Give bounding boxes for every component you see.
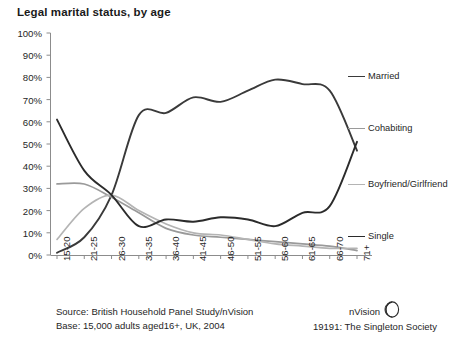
y-axis-tick-label: 100% (6, 28, 42, 39)
series-line-single (57, 120, 357, 228)
legend-item-single[interactable]: Single (348, 232, 394, 241)
x-axis-tick-label: 56-60 (279, 236, 290, 261)
x-axis-tick-label: 15-20 (61, 236, 72, 261)
brand-caption: 19191: The Singleton Society (300, 321, 450, 332)
x-axis-tick-label: 31-35 (143, 236, 154, 261)
y-axis-tick-label: 50% (6, 139, 42, 150)
x-axis-tick-label: 21-25 (88, 236, 99, 261)
footer-notes: Source: British Household Panel Study/nV… (56, 305, 253, 332)
brand-name: nVision (349, 307, 380, 317)
series-line-married (57, 79, 357, 252)
x-axis-tick-label: 51-55 (252, 236, 263, 261)
data-series-lines (57, 79, 357, 252)
y-axis-tick-label: 10% (6, 227, 42, 238)
y-axis-tick-label: 0% (6, 250, 42, 261)
base-line: Base: 15,000 adults aged16+, UK, 2004 (56, 319, 253, 333)
legend-swatch (348, 184, 365, 185)
source-line: Source: British Household Panel Study/nV… (56, 305, 253, 319)
y-axis-tick-label: 40% (6, 161, 42, 172)
legend-swatch (348, 76, 365, 77)
brand-block: nVision 19191: The Singleton Society (300, 303, 450, 332)
y-axis-tick-label: 90% (6, 50, 42, 61)
legend-label: Married (368, 72, 400, 81)
legend-item-married[interactable]: Married (348, 72, 400, 81)
chart-container: Legal marital status, by age 0%10%20%30%… (0, 0, 452, 351)
y-axis-tick-label: 20% (6, 205, 42, 216)
legend-item-boyfriend-girlfriend[interactable]: Boyfriend/Girlfriend (348, 180, 448, 189)
y-axis-ticks (47, 33, 51, 255)
plot-area (0, 0, 452, 351)
legend-label: Cohabiting (368, 124, 412, 133)
nvision-sphere-icon (382, 301, 401, 322)
y-axis-tick-label: 70% (6, 94, 42, 105)
x-axis-tick-label: 26-30 (116, 236, 127, 261)
legend-swatch (348, 236, 365, 237)
x-axis-tick-label: 46-50 (225, 236, 236, 261)
y-axis-tick-label: 30% (6, 183, 42, 194)
legend-item-cohabiting[interactable]: Cohabiting (348, 124, 412, 133)
legend-label: Boyfriend/Girlfriend (368, 180, 448, 189)
x-axis-tick-label: 71+ (361, 245, 372, 261)
axis-lines (51, 33, 373, 256)
y-axis-tick-label: 80% (6, 72, 42, 83)
x-axis-tick-label: 66-70 (334, 236, 345, 261)
x-axis-tick-label: 41-45 (197, 236, 208, 261)
legend-swatch (348, 128, 365, 129)
legend-label: Single (368, 232, 394, 241)
x-axis-tick-label: 36-40 (170, 236, 181, 261)
y-axis-tick-label: 60% (6, 116, 42, 127)
x-axis-tick-label: 61-65 (306, 236, 317, 261)
